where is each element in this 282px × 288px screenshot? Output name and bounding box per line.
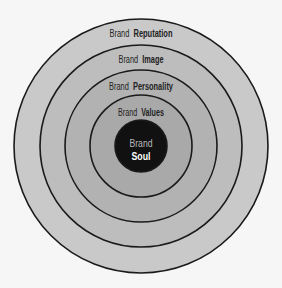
label-core-keyword: Soul xyxy=(132,150,151,162)
label-core-prefix: Brand xyxy=(130,137,153,149)
label-prefix: Brand xyxy=(110,27,130,39)
label-prefix: Brand xyxy=(119,53,139,65)
label-keyword: Reputation xyxy=(134,27,173,39)
brand-concentric-diagram: Brand Reputation Brand Image Brand Perso… xyxy=(0,0,282,288)
label-keyword: Values xyxy=(141,106,164,118)
label-keyword: Personality xyxy=(133,80,174,92)
label-prefix: Brand xyxy=(109,80,129,92)
label-brand-reputation: Brand Reputation xyxy=(110,27,173,39)
label-brand-values: Brand Values xyxy=(118,106,164,118)
label-keyword: Image xyxy=(142,53,163,65)
label-prefix: Brand xyxy=(118,106,137,118)
label-brand-personality: Brand Personality xyxy=(109,80,174,92)
